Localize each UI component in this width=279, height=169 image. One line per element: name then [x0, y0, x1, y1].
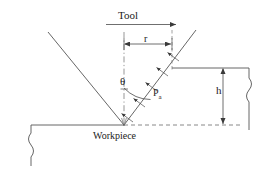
tool-left-face — [48, 32, 124, 125]
label-pressure-subscript: a — [159, 93, 162, 101]
left-break-line — [29, 125, 37, 166]
label-radius: r — [144, 34, 147, 44]
label-workpiece: Workpiece — [93, 131, 136, 141]
label-height: h — [216, 85, 222, 96]
label-pressure: Pa — [153, 88, 162, 101]
technical-diagram: Tool r θ Pa h Workpiece — [0, 0, 279, 169]
pressure-distribution-arrows — [122, 53, 180, 123]
label-tool: Tool — [118, 10, 138, 21]
label-theta-angle: θ — [120, 76, 125, 87]
theta-angle-arc — [121, 88, 151, 100]
diagram-canvas — [0, 0, 279, 169]
right-break-line — [247, 68, 252, 130]
r-dimension-line — [124, 38, 172, 50]
